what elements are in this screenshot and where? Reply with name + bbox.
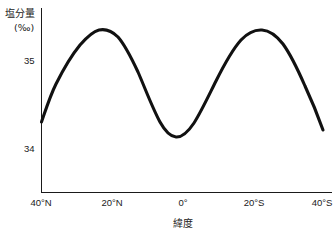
x-tick-label-40n: 40°N — [30, 197, 51, 208]
y-axis-unit: (‰) — [14, 22, 34, 33]
y-axis-title: 塩分量 — [5, 7, 35, 19]
x-axis-title: 緯度 — [173, 217, 193, 229]
x-tick-label-40s: 40°S — [312, 197, 333, 208]
y-tick-label-34: 34 — [24, 143, 35, 154]
x-tick-label-20s: 20°S — [244, 197, 265, 208]
chart-svg: 塩分量 (‰) 35 34 40°N 20°N 0° 20°S 40°S 緯度 — [0, 0, 336, 234]
x-tick-label-20n: 20°N — [101, 197, 122, 208]
x-tick-label-0: 0° — [178, 197, 187, 208]
salinity-latitude-chart: 塩分量 (‰) 35 34 40°N 20°N 0° 20°S 40°S 緯度 — [0, 0, 336, 234]
salinity-curve — [42, 30, 324, 137]
y-tick-label-35: 35 — [24, 55, 35, 66]
axis-frame — [42, 8, 333, 193]
